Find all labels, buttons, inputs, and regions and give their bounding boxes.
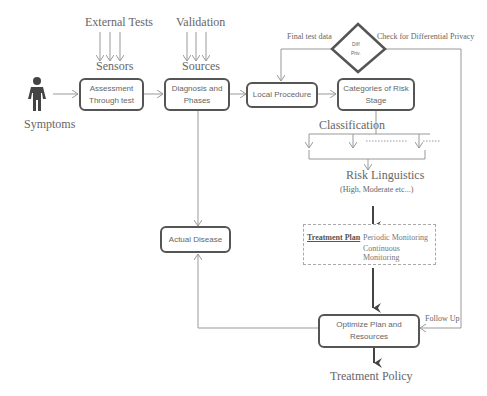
diagnosis-line1: Diagnosis and xyxy=(172,83,223,95)
sources-label: Sources xyxy=(182,59,220,74)
assessment-line1: Assessment xyxy=(89,83,134,95)
flow-diagram: External Tests Sensors Validation Source… xyxy=(0,0,487,396)
decision-line1: Diff xyxy=(351,40,361,49)
decision-label: Diff Priv. xyxy=(351,40,361,58)
assessment-line2: Through test xyxy=(89,95,134,107)
optimize-line1: Optimize Plan and xyxy=(336,319,401,331)
treatment-policy-label: Treatment Policy xyxy=(330,369,413,384)
diagnosis-node: Diagnosis andPhases xyxy=(164,78,230,111)
treatment-plan-title: Treatment Plan xyxy=(307,233,360,242)
categories-line2: Stage xyxy=(343,95,408,107)
diagnosis-line2: Phases xyxy=(172,95,223,107)
treatment-plan-box: Treatment Plan : Periodic Monitoring Con… xyxy=(303,224,436,265)
classification-label: Classification xyxy=(319,118,385,133)
actual-disease-node: Actual Disease xyxy=(160,226,231,253)
risk-levels-label: (High, Moderate etc...) xyxy=(340,185,413,194)
treatment-plan-item-periodic: Periodic Monitoring xyxy=(363,233,428,242)
local-procedure-label: Local Procedure xyxy=(253,89,311,101)
treatment-plan-item-continuous: Continuous Monitoring xyxy=(363,244,435,262)
validation-label: Validation xyxy=(176,15,225,30)
local-procedure-node: Local Procedure xyxy=(246,82,318,108)
risk-linguistics-label: Risk Linguistics xyxy=(346,168,424,183)
optimize-line2: Resources xyxy=(336,331,401,343)
person-icon xyxy=(28,77,46,111)
actual-disease-label: Actual Disease xyxy=(169,234,222,246)
external-tests-label: External Tests xyxy=(85,15,153,30)
optimize-node: Optimize Plan andResources xyxy=(318,314,420,348)
assessment-node: AssessmentThrough test xyxy=(79,78,144,111)
categories-line1: Categories of Risk xyxy=(343,83,408,95)
sensors-label: Sensors xyxy=(96,59,133,74)
categories-node: Categories of RiskStage xyxy=(337,78,415,111)
check-dp-label: Check for Differential Privacy xyxy=(377,32,474,41)
treatment-plan-separator: : xyxy=(358,233,360,242)
decision-line2: Priv. xyxy=(351,49,361,58)
final-test-data-label: Final test data xyxy=(287,32,332,41)
symptoms-label: Symptoms xyxy=(24,117,75,132)
follow-up-label: Follow Up xyxy=(425,314,459,323)
